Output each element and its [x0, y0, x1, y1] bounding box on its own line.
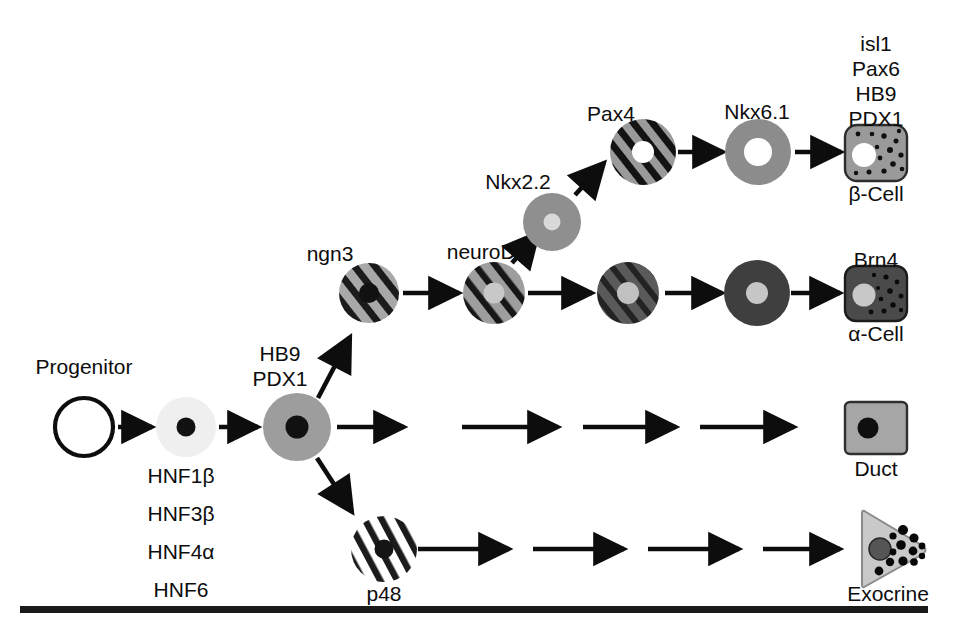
factor-pax6: Pax6: [849, 56, 904, 81]
cell-nkx22: [523, 193, 581, 251]
label-beta-cell: β-Cell: [848, 183, 903, 205]
cell-progenitor: [55, 398, 113, 456]
cell-hnf1b: [156, 397, 216, 457]
label-brn4: Brn4: [854, 249, 898, 271]
progenitor-factor-list: HNF1β HNF3β HNF4α HNF6: [148, 457, 215, 609]
factor-hnf4a: HNF4α: [148, 533, 215, 571]
cell-alpha-intermediate-1: [597, 262, 659, 324]
label-duct: Duct: [854, 458, 897, 480]
cell-p48: [351, 516, 417, 582]
label-nkx61: Nkx6.1: [724, 101, 789, 123]
factor-hnf1b: HNF1β: [148, 457, 215, 495]
cell-exocrine: [862, 511, 926, 588]
factor-pdx1: PDX1: [849, 106, 904, 131]
factor-hnf6: HNF6: [148, 571, 215, 609]
cell-duct: [845, 402, 907, 454]
cell-alpha-intermediate-2: [724, 260, 790, 326]
label-pdx1-group: HB9 PDX1: [253, 341, 308, 391]
label-alpha-cell: α-Cell: [848, 323, 903, 345]
pancreas-lineage-diagram: Progenitor HB9 PDX1 HNF1β HNF3β HNF4α HN…: [0, 0, 954, 635]
cell-pdx1: [263, 393, 331, 461]
label-pdx1: PDX1: [253, 366, 308, 391]
diagram-graphics: [0, 0, 954, 635]
label-progenitor: Progenitor: [36, 356, 133, 378]
factor-hnf3b: HNF3β: [148, 495, 215, 533]
cell-pax4: [610, 119, 676, 185]
label-exocrine: Exocrine: [847, 583, 929, 605]
label-nkx22: Nkx2.2: [485, 171, 550, 193]
cell-alpha: [845, 266, 907, 321]
label-pax4: Pax4: [587, 103, 635, 125]
label-neurod1: neuroD1: [447, 241, 528, 263]
cell-neurod1: [463, 262, 525, 324]
cell-nkx61: [725, 119, 791, 185]
factor-hb9: HB9: [849, 81, 904, 106]
beta-factor-list: isl1 Pax6 HB9 PDX1: [849, 31, 904, 131]
factor-isl1: isl1: [849, 31, 904, 56]
label-hb9: HB9: [253, 341, 308, 366]
cell-ngn3: [339, 263, 399, 323]
label-p48: p48: [366, 583, 401, 605]
arrow-group-main: [118, 152, 841, 549]
cell-beta: [845, 125, 907, 181]
label-ngn3: ngn3: [307, 243, 354, 265]
